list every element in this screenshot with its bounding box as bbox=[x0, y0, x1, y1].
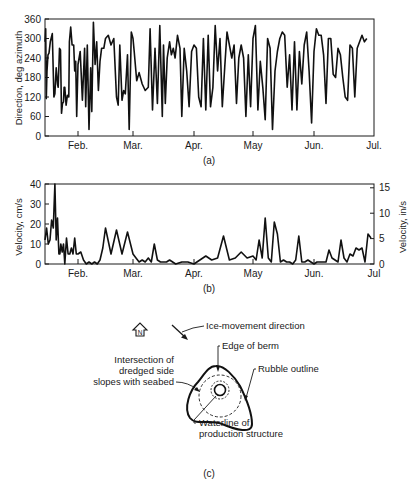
velocity-series-line bbox=[45, 184, 371, 264]
y-tick-label: 300 bbox=[24, 33, 41, 44]
direction-chart: 060120180240300360 Feb.Mar.Apr.MayJun.Ju… bbox=[0, 0, 420, 175]
y-tick-label: 10 bbox=[30, 239, 42, 250]
intersection-label-line3: slopes with seabed bbox=[93, 376, 174, 387]
right-y-tick-label: 5 bbox=[379, 233, 385, 244]
panel-caption-a: (a) bbox=[203, 155, 215, 166]
ice-direction-label: Ice-movement direction bbox=[206, 320, 305, 331]
x-tick-label: Apr. bbox=[185, 140, 203, 151]
x-axis-ticks: Feb.Mar.Apr.MayJun.Jul. bbox=[68, 131, 382, 151]
x-tick-label: Jul. bbox=[366, 140, 382, 151]
waterline-label-line2: production structure bbox=[199, 428, 283, 439]
y-tick-label: 40 bbox=[30, 179, 42, 190]
north-arrow-icon: N bbox=[133, 323, 147, 336]
panel-caption-b: (b) bbox=[203, 283, 215, 294]
left-y-axis-label: Velocity, cm/s bbox=[13, 198, 24, 256]
intersection-label-line1: Intersection of bbox=[114, 354, 174, 365]
production-structure-circle bbox=[215, 385, 226, 396]
y-tick-label: 360 bbox=[24, 14, 41, 25]
y-axis-label: Direction, deg azimuth bbox=[13, 31, 24, 126]
intersection-label-line2: dredged side bbox=[119, 365, 174, 376]
panel-caption-c: (c) bbox=[203, 468, 215, 479]
y-tick-label: 180 bbox=[24, 72, 41, 83]
left-y-axis-ticks: 010203040 bbox=[30, 179, 49, 270]
ice-direction-arrow-icon bbox=[172, 325, 204, 340]
x-tick-label: Feb. bbox=[68, 140, 88, 151]
y-tick-label: 240 bbox=[24, 53, 41, 64]
rubble-outline-label: Rubble outline bbox=[258, 363, 319, 374]
y-tick-label: 0 bbox=[35, 131, 41, 142]
y-tick-label: 30 bbox=[30, 199, 42, 210]
edge-of-berm-label: Edge of berm bbox=[222, 340, 279, 351]
y-tick-label: 20 bbox=[30, 219, 42, 230]
waterline-label-line1: Waterline of bbox=[199, 417, 250, 428]
x-tick-label: May bbox=[244, 140, 263, 151]
x-tick-label: Apr. bbox=[185, 268, 203, 279]
site-plan-diagram: N Ice-movement direction Edge of berm In… bbox=[0, 310, 420, 489]
x-tick-label: Jun. bbox=[305, 140, 324, 151]
velocity-chart: 010203040 051015 Feb.Mar.Apr.MayJun.Jul … bbox=[0, 175, 420, 310]
right-y-tick-label: 15 bbox=[379, 182, 391, 193]
y-tick-label: 120 bbox=[24, 92, 41, 103]
x-tick-label: Jun. bbox=[305, 268, 324, 279]
x-tick-label: Feb. bbox=[68, 268, 88, 279]
plot-frame bbox=[45, 184, 374, 264]
x-tick-label: May bbox=[244, 268, 263, 279]
x-axis-ticks: Feb.Mar.Apr.MayJun.Jul bbox=[68, 259, 380, 279]
right-y-axis-ticks: 051015 bbox=[370, 182, 391, 269]
right-y-axis-label: Velocity, in/s bbox=[397, 201, 408, 253]
x-tick-label: Mar. bbox=[123, 140, 142, 151]
north-label: N bbox=[138, 329, 143, 336]
x-tick-label: Jul bbox=[368, 268, 381, 279]
y-tick-label: 60 bbox=[30, 111, 42, 122]
x-tick-label: Mar. bbox=[123, 268, 142, 279]
y-tick-label: 0 bbox=[35, 259, 41, 270]
direction-series-line bbox=[45, 22, 367, 129]
right-y-tick-label: 10 bbox=[379, 208, 391, 219]
